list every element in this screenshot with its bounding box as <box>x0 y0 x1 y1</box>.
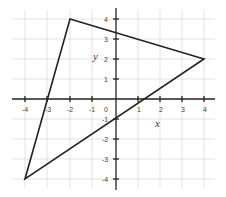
svg-text:-1: -1 <box>89 106 95 113</box>
svg-text:3: 3 <box>181 106 185 113</box>
x-tick-labels: -4 -3 -2 -1 0 1 2 3 4 <box>22 106 207 113</box>
svg-text:-4: -4 <box>102 176 108 183</box>
svg-text:-3: -3 <box>102 156 108 163</box>
svg-text:-2: -2 <box>67 106 73 113</box>
svg-text:0: 0 <box>104 106 108 113</box>
x-axis-label: x <box>154 117 160 129</box>
svg-text:-1: -1 <box>102 116 108 123</box>
svg-text:-4: -4 <box>22 106 28 113</box>
svg-text:-3: -3 <box>45 106 51 113</box>
svg-text:1: 1 <box>104 76 108 83</box>
svg-text:3: 3 <box>104 36 108 43</box>
svg-text:4: 4 <box>203 106 207 113</box>
svg-text:2: 2 <box>104 56 108 63</box>
svg-text:4: 4 <box>104 16 108 23</box>
coordinate-plane: -4 -3 -2 -1 0 1 2 3 4 4 3 2 1 -1 -2 -3 -… <box>0 0 226 197</box>
svg-text:-2: -2 <box>102 136 108 143</box>
svg-text:2: 2 <box>159 106 163 113</box>
svg-text:1: 1 <box>137 106 141 113</box>
y-axis-label: y <box>92 50 98 62</box>
